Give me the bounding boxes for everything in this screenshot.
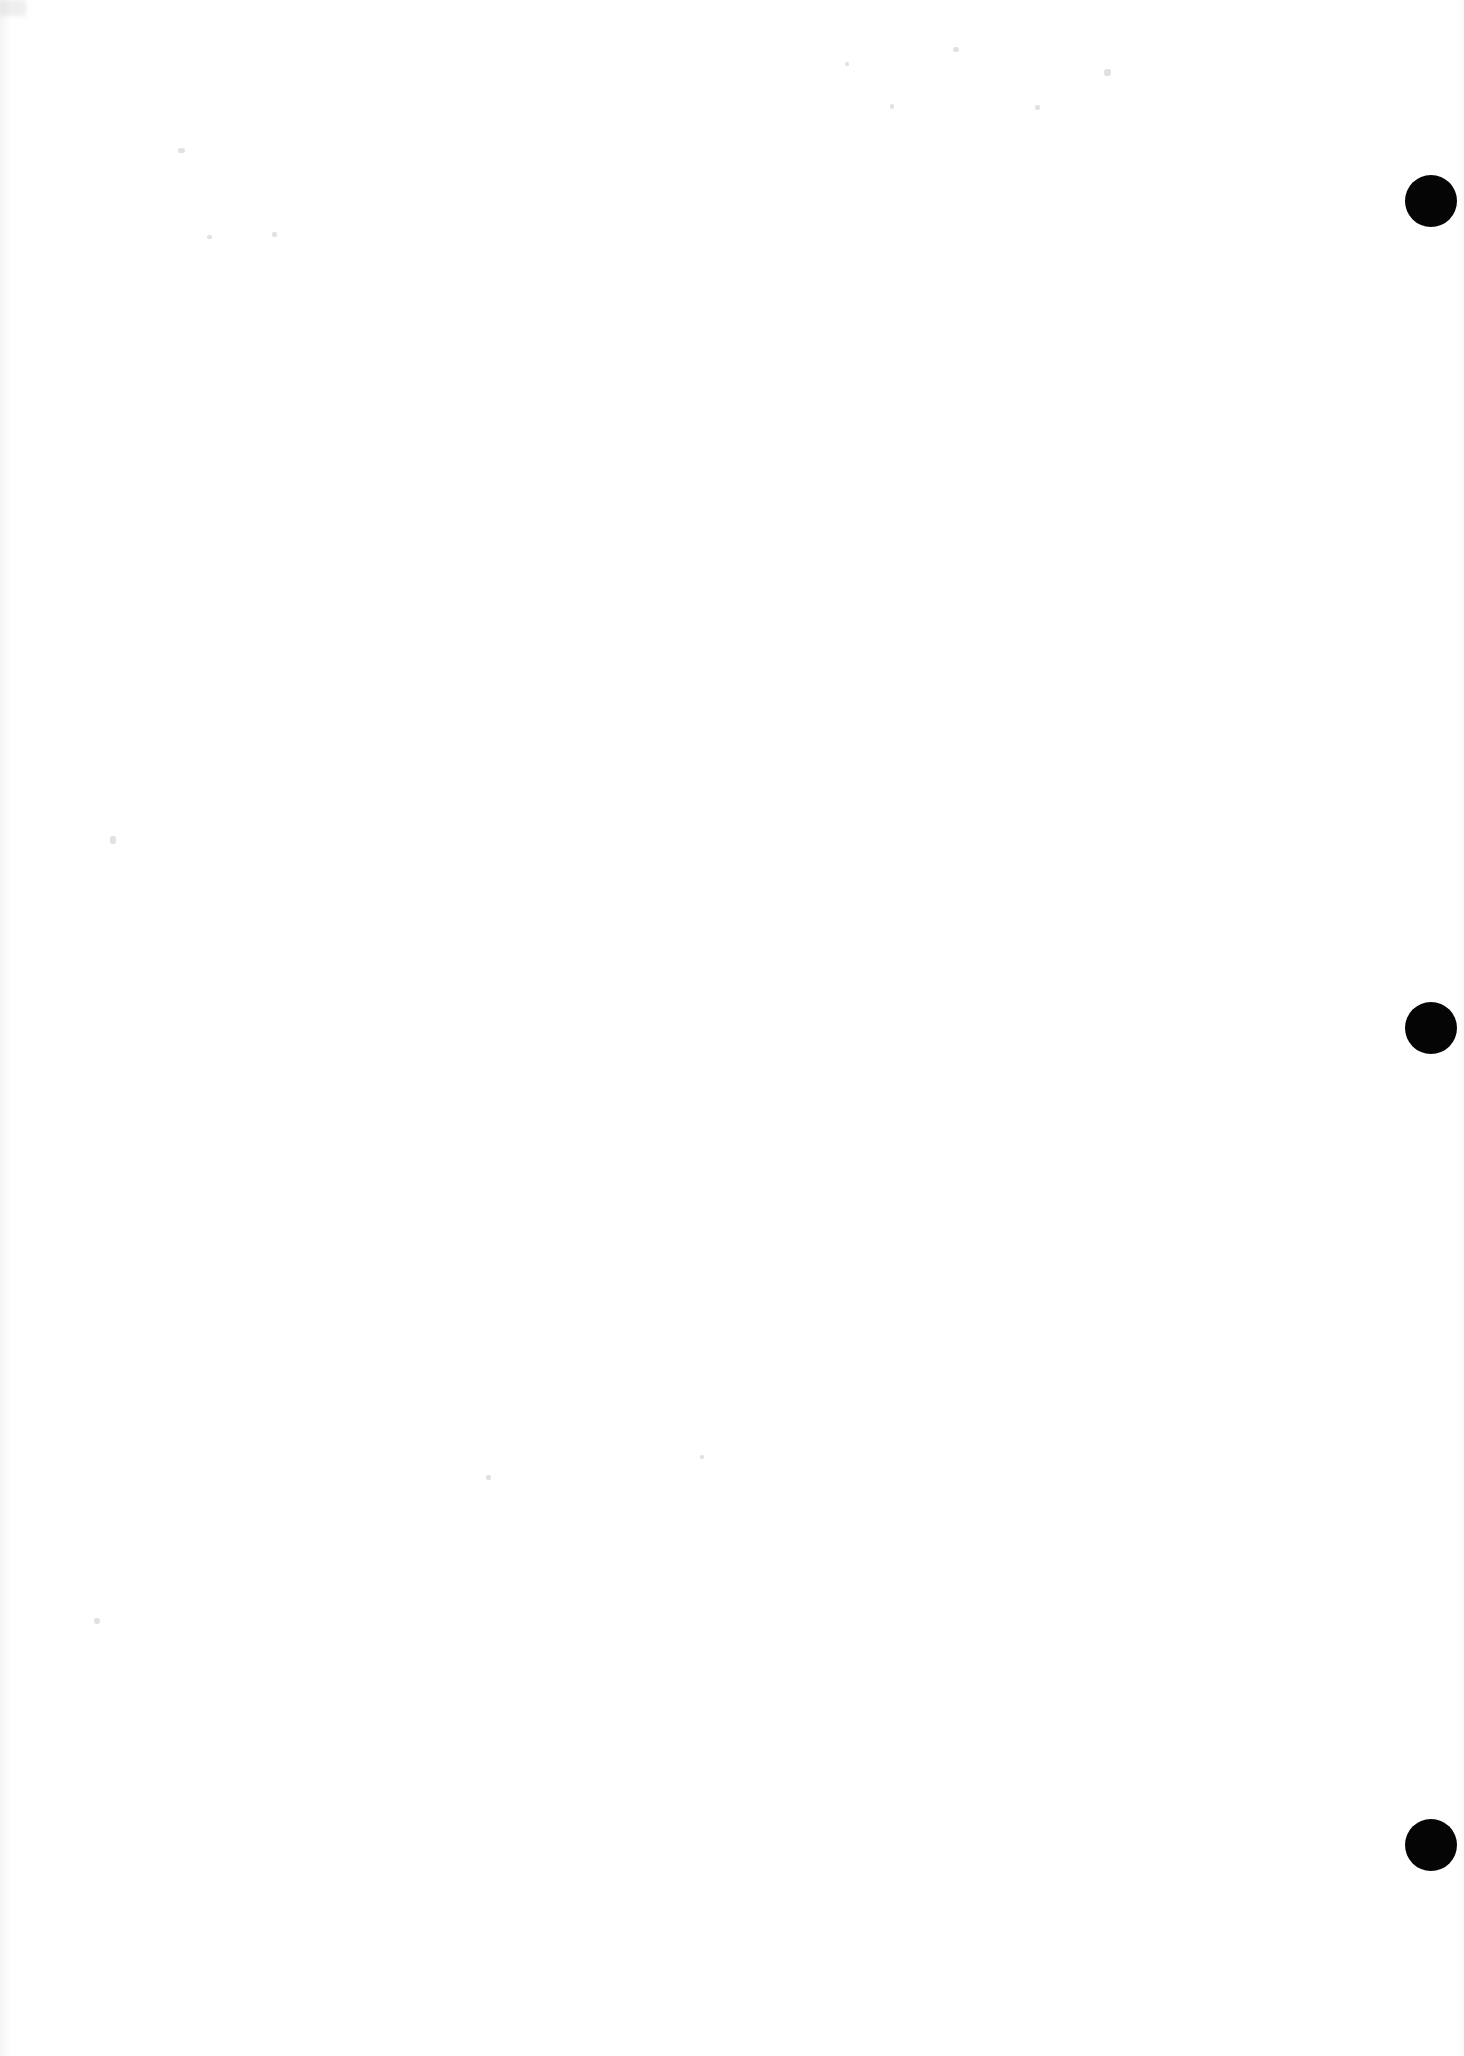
paper-surface — [0, 0, 1464, 2056]
binding-mark-top — [1405, 175, 1457, 227]
scanned-page — [0, 0, 1464, 2056]
binding-mark-middle — [1405, 1002, 1457, 1054]
binding-mark-bottom — [1405, 1819, 1457, 1871]
